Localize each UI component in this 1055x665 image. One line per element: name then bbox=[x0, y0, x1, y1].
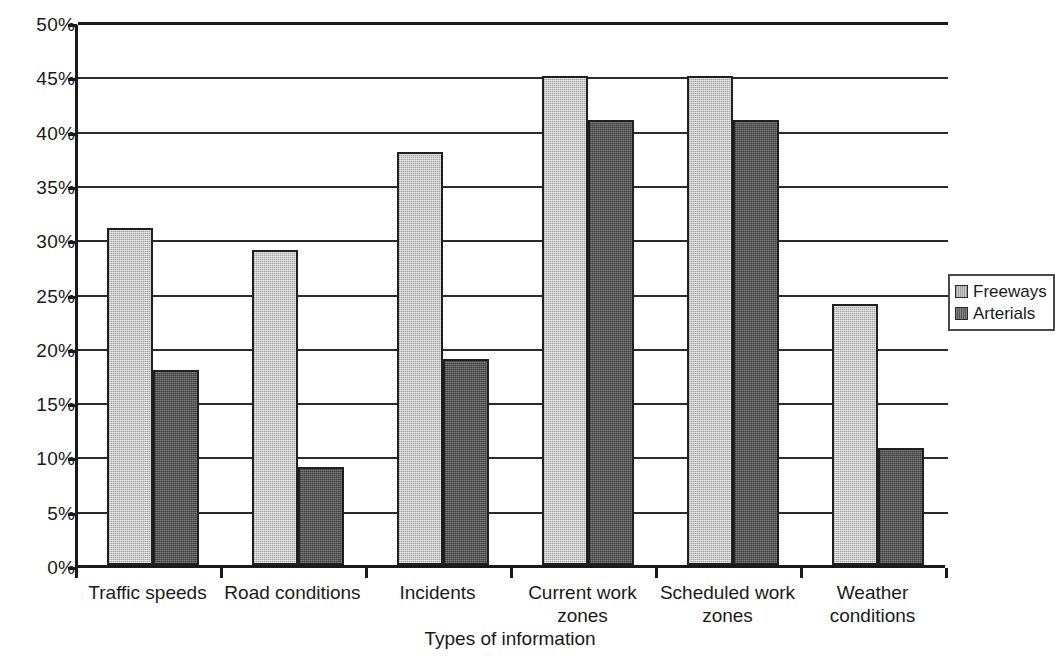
bar-arterials-3 bbox=[588, 120, 634, 565]
x-category-label-line: Current work bbox=[510, 581, 655, 604]
x-category-label-line: Weather bbox=[800, 581, 945, 604]
bar-arterials-0 bbox=[153, 370, 199, 565]
legend-swatch-arterials-icon bbox=[955, 307, 968, 320]
x-category-label-line: Traffic speeds bbox=[75, 581, 220, 604]
x-category-label-line: Road conditions bbox=[220, 581, 365, 604]
plot-area bbox=[75, 25, 945, 568]
x-axis-title: Types of information bbox=[75, 628, 945, 650]
y-tick-label-40: 40% bbox=[13, 124, 75, 143]
x-category-label-line: conditions bbox=[800, 604, 945, 627]
legend-swatch-freeways-icon bbox=[955, 285, 968, 298]
x-tick-mark-0 bbox=[75, 568, 78, 578]
y-tick-label-25: 25% bbox=[13, 287, 75, 306]
x-category-label-line: zones bbox=[510, 604, 655, 627]
y-tick-label-35: 35% bbox=[13, 178, 75, 197]
legend-label-arterials: Arterials bbox=[973, 305, 1035, 322]
y-axis: 0%5%10%15%20%25%30%35%40%45%50% bbox=[0, 0, 75, 600]
y-tick-label-20: 20% bbox=[13, 341, 75, 360]
x-category-label-line: zones bbox=[655, 604, 800, 627]
bar-arterials-5 bbox=[878, 448, 924, 565]
chart-legend: Freeways Arterials bbox=[948, 274, 1055, 331]
bar-arterials-1 bbox=[298, 467, 344, 565]
x-tick-mark-4 bbox=[655, 568, 658, 578]
x-tick-mark-1 bbox=[220, 568, 223, 578]
bar-freeways-0 bbox=[107, 228, 153, 565]
x-category-label-line: Incidents bbox=[365, 581, 510, 604]
bars-layer bbox=[78, 25, 948, 565]
bar-freeways-1 bbox=[252, 250, 298, 565]
y-tick-label-0: 0% bbox=[13, 558, 75, 577]
x-tick-mark-5 bbox=[800, 568, 803, 578]
bar-arterials-2 bbox=[443, 359, 489, 565]
x-category-label-3: Current workzones bbox=[510, 581, 655, 627]
x-tick-mark-2 bbox=[365, 568, 368, 578]
bar-freeways-5 bbox=[832, 304, 878, 565]
bar-freeways-2 bbox=[397, 152, 443, 565]
y-tick-label-5: 5% bbox=[13, 504, 75, 523]
x-category-label-4: Scheduled workzones bbox=[655, 581, 800, 627]
x-category-label-2: Incidents bbox=[365, 581, 510, 604]
bar-freeways-4 bbox=[687, 76, 733, 565]
y-tick-label-10: 10% bbox=[13, 449, 75, 468]
legend-item-arterials: Arterials bbox=[955, 302, 1047, 324]
legend-label-freeways: Freeways bbox=[973, 283, 1047, 300]
x-tick-mark-6 bbox=[945, 568, 948, 578]
x-category-label-0: Traffic speeds bbox=[75, 581, 220, 604]
y-tick-label-45: 45% bbox=[13, 69, 75, 88]
x-tick-mark-3 bbox=[510, 568, 513, 578]
y-tick-label-50: 50% bbox=[13, 15, 75, 34]
bar-arterials-4 bbox=[733, 120, 779, 565]
y-tick-label-30: 30% bbox=[13, 232, 75, 251]
bar-freeways-3 bbox=[542, 76, 588, 565]
y-tick-label-15: 15% bbox=[13, 395, 75, 414]
x-category-label-5: Weatherconditions bbox=[800, 581, 945, 627]
x-category-label-line: Scheduled work bbox=[655, 581, 800, 604]
x-category-label-1: Road conditions bbox=[220, 581, 365, 604]
legend-item-freeways: Freeways bbox=[955, 280, 1047, 302]
